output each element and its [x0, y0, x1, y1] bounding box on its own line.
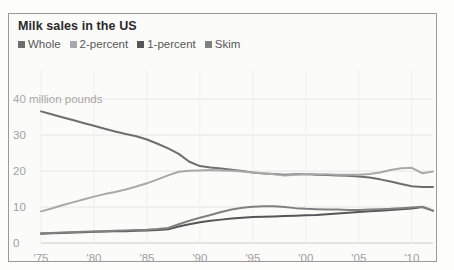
- legend-item-skim[interactable]: Skim: [205, 39, 241, 51]
- x-axis-tick-85: '85: [139, 252, 154, 262]
- legend-item-whole[interactable]: Whole: [18, 39, 61, 51]
- square-swatch-icon: [70, 41, 77, 48]
- x-axis-tick-80: '80: [86, 252, 101, 262]
- square-swatch-icon: [205, 41, 212, 48]
- x-axis-tick-00: '00: [298, 252, 313, 262]
- x-axis-tick-05: '05: [351, 252, 366, 262]
- chart-title: Milk sales in the US: [18, 19, 137, 33]
- square-swatch-icon: [137, 41, 144, 48]
- plot-area: 40 million pounds3020100 '75'80'85'90'95…: [9, 60, 437, 262]
- legend-item-2-percent[interactable]: 2-percent: [70, 39, 129, 51]
- y-axis-unit-label: 40 million pounds: [13, 93, 103, 105]
- x-axis-tick-10: '10: [404, 252, 419, 262]
- legend-label-whole: Whole: [28, 39, 61, 51]
- x-axis-tick-90: '90: [192, 252, 207, 262]
- series-line-skim: [41, 206, 433, 233]
- y-axis-tick-30: 30: [13, 129, 26, 141]
- x-axis-tick-95: '95: [245, 252, 260, 262]
- y-axis-tick-10: 10: [13, 201, 26, 213]
- series-line-1-percent: [41, 207, 433, 234]
- chart-legend: Whole 2-percent 1-percent Skim: [18, 39, 240, 51]
- screenshot-root: Milk sales in the US Whole 2-percent 1-p…: [0, 0, 454, 270]
- chart-panel: Milk sales in the US Whole 2-percent 1-p…: [8, 13, 437, 262]
- series-line-whole: [41, 111, 433, 187]
- line-chart-svg: 40 million pounds3020100 '75'80'85'90'95…: [9, 60, 437, 262]
- legend-item-1-percent[interactable]: 1-percent: [137, 39, 196, 51]
- square-swatch-icon: [18, 41, 25, 48]
- x-axis-tick-75: '75: [34, 252, 49, 262]
- legend-label-skim: Skim: [215, 39, 241, 51]
- x-axis-labels: '75'80'85'90'95'00'05'10: [34, 252, 420, 262]
- legend-label-1-percent: 1-percent: [147, 39, 196, 51]
- y-axis-tick-20: 20: [13, 165, 26, 177]
- series-line-2-percent: [41, 168, 433, 212]
- legend-label-2-percent: 2-percent: [80, 39, 129, 51]
- y-axis-tick-0: 0: [13, 237, 19, 249]
- series-lines: [41, 111, 433, 233]
